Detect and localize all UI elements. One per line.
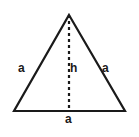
- label-side-left: a: [18, 62, 25, 74]
- label-side-right: a: [102, 62, 109, 74]
- geometry-figure: a h a a: [0, 0, 139, 137]
- label-base: a: [65, 113, 72, 125]
- label-height: h: [70, 62, 77, 74]
